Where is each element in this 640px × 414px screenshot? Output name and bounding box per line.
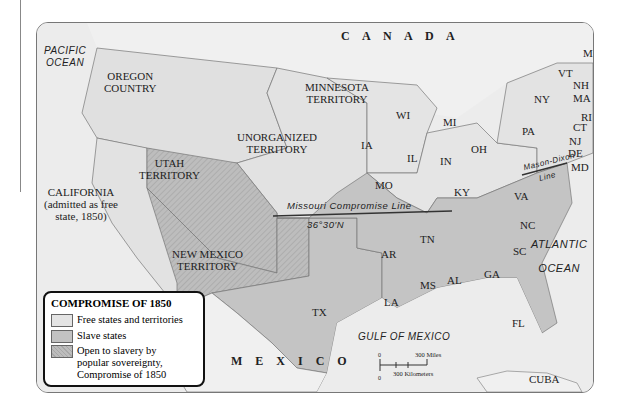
state-label-va: VA — [514, 190, 528, 202]
state-label-sc: SC — [513, 245, 526, 257]
state-label-ma: MA — [573, 92, 591, 104]
state-label-tn: TN — [420, 233, 435, 245]
state-label-tx: TX — [312, 306, 327, 318]
state-label-md: MD — [571, 161, 589, 173]
state-label-ny: NY — [534, 93, 550, 105]
legend-swatch-free — [51, 314, 73, 327]
territory-label-california: CALIFORNIA(admitted as freestate, 1850) — [44, 186, 118, 222]
region-label-cuba: CUBA — [529, 373, 560, 385]
water-label-pacific: PACIFICOCEAN — [44, 45, 86, 69]
state-label-nc: NC — [520, 219, 535, 231]
state-label-oh: OH — [471, 143, 487, 155]
state-label-me: ME — [583, 47, 594, 59]
state-label-mi: MI — [443, 116, 456, 128]
region-label-canada: C A N A D A — [341, 30, 460, 42]
legend-label-popular-sovereignty: Open to slavery bypopular sovereignty,Co… — [77, 345, 166, 381]
state-label-ky: KY — [454, 186, 470, 198]
legend-label-slave: Slave states — [77, 330, 126, 342]
state-label-pa: PA — [522, 125, 535, 137]
water-label-atlantic: ATLANTICOCEAN — [531, 238, 587, 274]
scale-zero-km: 0 — [378, 372, 381, 384]
legend-swatch-slave — [51, 330, 73, 343]
state-label-wi: WI — [396, 109, 410, 121]
missouri-compromise-line-label: Missouri Compromise Line — [287, 200, 411, 212]
state-label-ms: MS — [420, 279, 436, 291]
state-label-ga: GA — [484, 268, 500, 280]
state-label-mo: MO — [375, 179, 393, 191]
legend-swatch-popular-sovereignty — [51, 345, 73, 358]
page-divider-line — [20, 0, 21, 192]
territory-label-minnesota: MINNESOTATERRITORY — [305, 81, 369, 105]
scale-km-label: 300 Kilometers — [393, 368, 433, 380]
territory-label-utah: UTAHTERRITORY — [139, 157, 200, 181]
state-label-il: IL — [407, 152, 417, 164]
scale-miles-label: 300 Miles — [415, 349, 441, 361]
state-label-ar: AR — [381, 248, 396, 260]
scale-zero-miles: 0 — [378, 349, 381, 361]
state-label-ia: IA — [361, 139, 373, 151]
legend-label-free: Free states and territories — [77, 314, 183, 326]
state-label-vt: VT — [558, 67, 573, 79]
state-label-ct: CT — [573, 121, 587, 133]
territory-label-new-mexico: NEW MEXICOTERRITORY — [172, 248, 243, 272]
territory-label-unorganized: UNORGANIZEDTERRITORY — [237, 131, 317, 155]
state-label-al: AL — [447, 274, 462, 286]
state-label-fl: FL — [512, 317, 525, 329]
territory-label-oregon: OREGONCOUNTRY — [104, 70, 157, 94]
region-label-mexico: M E X I C O — [231, 355, 352, 367]
state-label-nh: NH — [573, 79, 589, 91]
state-label-in: IN — [440, 155, 452, 167]
legend-title: COMPROMISE OF 1850 — [51, 297, 172, 309]
water-label-gulf: GULF OF MEXICO — [358, 331, 450, 343]
state-label-nj: NJ — [569, 135, 581, 147]
map-legend: COMPROMISE OF 1850 Free states and terri… — [43, 291, 205, 387]
state-label-la: LA — [384, 296, 399, 308]
latitude-label: 36°30′N — [307, 219, 344, 231]
